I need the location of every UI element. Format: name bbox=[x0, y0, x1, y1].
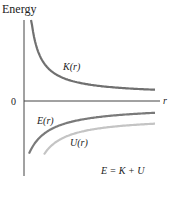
curve-k bbox=[31, 20, 155, 90]
energy-diagram: Energy 0 r K(r) E(r) U(r) E = K + U bbox=[0, 0, 177, 197]
label-e: E(r) bbox=[36, 115, 54, 127]
equation-label: E = K + U bbox=[100, 165, 145, 176]
label-u: U(r) bbox=[70, 137, 88, 149]
x-axis-label: r bbox=[163, 95, 167, 106]
origin-label: 0 bbox=[11, 96, 16, 107]
label-k: K(r) bbox=[62, 61, 81, 73]
y-axis-label: Energy bbox=[2, 2, 36, 16]
curve-u bbox=[44, 124, 155, 155]
